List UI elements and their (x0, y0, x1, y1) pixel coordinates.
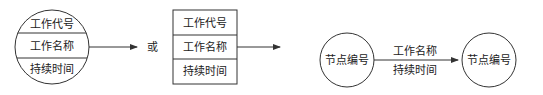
box-row-duration: 持续时间 (183, 64, 227, 78)
or-label: 或 (147, 41, 158, 54)
arrow-label-duration: 持续时间 (393, 63, 437, 77)
circle-row-duration: 持续时间 (30, 62, 74, 76)
arrow-label-name: 工作名称 (393, 44, 437, 58)
circle-row-code: 工作代号 (30, 18, 74, 31)
network-diagram-notation: 工作代号 工作名称 持续时间 或 工作代号 工作名称 持续时间 节点编号 工作名… (0, 0, 543, 95)
circle-row-name: 工作名称 (30, 39, 74, 53)
activity-node-circle: 工作代号 工作名称 持续时间 (10, 10, 94, 84)
activity-on-arrow: 节点编号 工作名称 持续时间 节点编号 (320, 33, 516, 87)
start-node-label: 节点编号 (325, 53, 369, 67)
activity-node-box: 工作代号 工作名称 持续时间 (173, 10, 237, 84)
box-row-code: 工作代号 (183, 17, 227, 30)
box-row-name: 工作名称 (183, 40, 227, 54)
end-node-label: 节点编号 (467, 53, 511, 67)
